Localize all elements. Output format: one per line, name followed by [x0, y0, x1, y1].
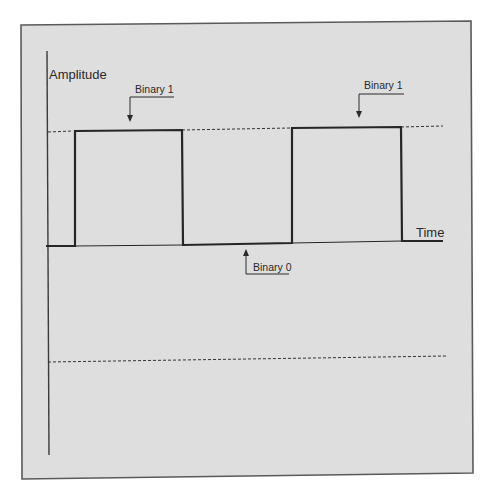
binary-0-label: Binary 0 [253, 261, 292, 273]
diagram-stage: Amplitude Time Binary 1 Binary 1 [0, 0, 485, 491]
y-axis-label: Amplitude [49, 67, 107, 82]
diagram-panel [21, 21, 473, 479]
binary-1-label-first: Binary 1 [135, 83, 174, 95]
x-axis-label: Time [416, 225, 444, 240]
binary-1-label-second: Binary 1 [364, 79, 403, 91]
square-wave-diagram: Amplitude Time Binary 1 Binary 1 [0, 0, 485, 491]
